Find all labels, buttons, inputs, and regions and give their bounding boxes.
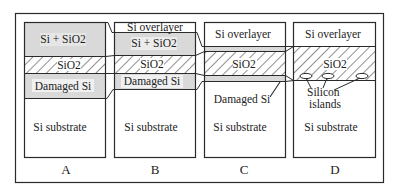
- panel-label-b: B: [151, 162, 160, 177]
- panel-label-d: D: [330, 162, 339, 177]
- label-si-sio2: Si + SiO2: [131, 37, 177, 49]
- connectors-b-c: [196, 33, 205, 90]
- panel-d: Si overlayer SiO2 Silicon islands Si sub…: [294, 23, 376, 178]
- label-si-substrate: Si substrate: [33, 121, 86, 133]
- label-sio2: SiO2: [323, 58, 347, 70]
- panel-label-c: C: [240, 162, 249, 177]
- label-silicon-islands-2: islands: [309, 98, 341, 110]
- label-damaged-si: Damaged Si: [214, 93, 271, 106]
- label-si-overlayer: Si overlayer: [127, 21, 183, 34]
- label-silicon-islands-1: Silicon: [307, 86, 340, 98]
- label-si-substrate: Si substrate: [304, 121, 357, 133]
- panel-b: Si overlayer Si + SiO2 SiO2 Damaged Si S…: [115, 21, 196, 177]
- layer-si-sio2-thin: [205, 47, 286, 52]
- label-damaged-si: Damaged Si: [124, 75, 181, 88]
- connectors-c-d: [286, 47, 294, 82]
- label-si-substrate: Si substrate: [124, 121, 177, 133]
- label-si-overlayer: Si overlayer: [305, 28, 361, 41]
- label-sio2: SiO2: [232, 58, 256, 70]
- label-si-overlayer: Si overlayer: [215, 28, 271, 41]
- label-si-sio2: Si + SiO2: [40, 33, 86, 45]
- layer-damaged-si: [205, 76, 286, 82]
- panel-label-a: A: [61, 162, 71, 177]
- label-damaged-si: Damaged Si: [35, 80, 92, 93]
- label-si-substrate: Si substrate: [213, 121, 266, 133]
- label-sio2: SiO2: [140, 58, 164, 70]
- label-sio2: SiO2: [57, 59, 81, 71]
- panel-a: Si + SiO2 SiO2 Damaged Si Si substrate A: [25, 23, 106, 178]
- panel-c: Si overlayer SiO2 Damaged Si Si substrat…: [205, 23, 286, 178]
- connectors-a-b: [106, 23, 115, 99]
- soi-layer-diagram: Si + SiO2 SiO2 Damaged Si Si substrate A…: [0, 0, 396, 192]
